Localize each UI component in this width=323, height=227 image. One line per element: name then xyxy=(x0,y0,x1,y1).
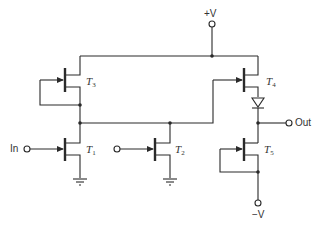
t5-label: T5 xyxy=(264,144,274,157)
negative-supply-terminal xyxy=(255,200,261,206)
output-label: Out xyxy=(295,118,311,128)
junction-dot xyxy=(210,54,214,58)
transistor-t5 xyxy=(220,138,258,200)
t1-label: T1 xyxy=(86,144,96,157)
middle-node-wire xyxy=(80,80,213,123)
ground-symbol xyxy=(73,179,87,185)
positive-supply-terminal xyxy=(209,21,215,27)
diode xyxy=(252,98,264,143)
ground-symbol xyxy=(163,179,177,185)
t4-label: T4 xyxy=(266,76,276,89)
positive-supply-label: +V xyxy=(204,9,217,19)
t3-label: T3 xyxy=(86,76,96,89)
input-label: In xyxy=(10,144,18,154)
transistor-t2 xyxy=(114,123,170,178)
junction-dot xyxy=(256,121,260,125)
negative-supply-label: −V xyxy=(252,210,265,220)
transistor-t1 xyxy=(24,123,80,178)
transistor-t4 xyxy=(213,56,258,97)
output-terminal xyxy=(286,120,292,126)
transistor-t3 xyxy=(40,56,80,105)
circuit-diagram: +V −V In Out T3 T4 T1 T2 T5 xyxy=(0,0,323,227)
junction-dot xyxy=(256,170,260,174)
t2-label: T2 xyxy=(175,144,185,157)
schematic-wires xyxy=(0,0,323,227)
